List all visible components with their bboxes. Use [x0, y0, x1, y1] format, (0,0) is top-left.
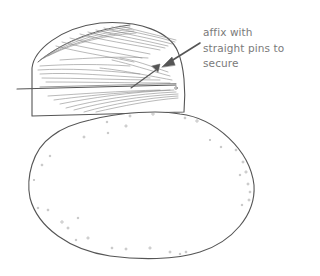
annotation-line-2: straight pins to: [203, 41, 297, 57]
annotation-line-1: affix with: [203, 25, 297, 41]
annotation-label: affix with straight pins to secure: [203, 25, 297, 72]
annotation-line-3: secure: [203, 56, 297, 72]
oval-pie-crust: [29, 112, 254, 259]
